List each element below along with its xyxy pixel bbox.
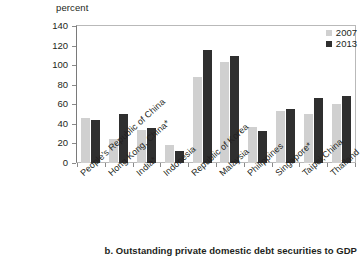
y-axis-tick-label: 80	[34, 80, 68, 90]
bar	[109, 139, 118, 163]
y-axis-tick	[72, 124, 76, 125]
bar	[286, 109, 295, 163]
y-axis-tick	[72, 26, 76, 27]
y-axis-tick	[72, 143, 76, 144]
bar	[304, 114, 313, 163]
chart-figure: percent 140120100806040200 20072013 Peop…	[0, 0, 363, 262]
x-axis-tick	[299, 163, 300, 167]
bar	[137, 130, 146, 163]
bar	[314, 98, 323, 163]
x-axis-tick	[160, 163, 161, 167]
y-axis-tick	[72, 104, 76, 105]
y-axis-tick-label: 40	[34, 119, 68, 129]
legend-item: 2007	[326, 27, 357, 38]
bar-group	[276, 26, 295, 163]
y-axis-unit-label: percent	[56, 2, 88, 13]
bar-group	[81, 26, 100, 163]
bar	[203, 50, 212, 164]
bar-group	[193, 26, 212, 163]
bar-group	[220, 26, 239, 163]
bar	[248, 127, 257, 163]
bar	[258, 131, 267, 163]
x-axis-tick	[216, 163, 217, 167]
x-axis-tick	[133, 163, 134, 167]
bar	[342, 96, 351, 163]
legend-label: 2013	[336, 38, 357, 49]
y-axis-tick	[72, 46, 76, 47]
x-axis-tick	[188, 163, 189, 167]
bar	[220, 62, 229, 163]
x-axis-tick	[77, 163, 78, 167]
bar	[81, 118, 90, 163]
bar-group	[248, 26, 267, 163]
bar	[230, 56, 239, 163]
y-axis-tick-label: 100	[34, 60, 68, 70]
bar	[175, 151, 184, 163]
x-axis-tick	[355, 163, 356, 167]
chart-legend: 20072013	[326, 27, 357, 49]
legend-item: 2013	[326, 38, 357, 49]
x-axis-tick	[105, 163, 106, 167]
bar	[276, 111, 285, 163]
bar	[193, 77, 202, 163]
bar	[119, 114, 128, 163]
y-axis-tick	[72, 163, 76, 164]
y-axis-tick-label: 0	[34, 158, 68, 168]
y-axis-tick	[72, 65, 76, 66]
y-axis-tick-label: 120	[34, 41, 68, 51]
chart-caption: b. Outstanding private domestic debt sec…	[0, 245, 357, 256]
y-axis-tick-label: 60	[34, 99, 68, 109]
legend-swatch-icon	[326, 30, 332, 36]
y-axis-tick-label: 140	[34, 21, 68, 31]
legend-swatch-icon	[326, 41, 332, 47]
bar	[165, 145, 174, 163]
bar-group	[165, 26, 184, 163]
bar-series-container	[77, 26, 355, 163]
x-axis-tick	[272, 163, 273, 167]
y-axis-tick-label: 20	[34, 138, 68, 148]
x-axis-tick	[327, 163, 328, 167]
legend-label: 2007	[336, 27, 357, 38]
bar	[332, 104, 341, 163]
y-axis-tick	[72, 85, 76, 86]
bar	[91, 120, 100, 163]
bar-group	[304, 26, 323, 163]
x-axis-tick	[244, 163, 245, 167]
bar	[147, 128, 156, 163]
bar-group	[109, 26, 128, 163]
bar-group	[137, 26, 156, 163]
